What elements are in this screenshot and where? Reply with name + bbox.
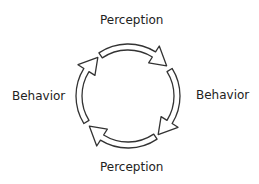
label-bottom-perception: Perception xyxy=(100,160,163,174)
top-arrow-icon xyxy=(99,44,167,66)
bottom-arrow-icon xyxy=(89,126,157,148)
label-left-behavior: Behavior xyxy=(12,89,65,103)
right-arrow-icon xyxy=(158,68,180,134)
left-arrow-icon xyxy=(76,57,98,123)
label-right-behavior: Behavior xyxy=(196,88,249,102)
label-top-perception: Perception xyxy=(100,13,163,27)
